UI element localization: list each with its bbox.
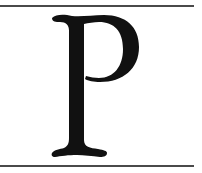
bottom-rule: [0, 165, 194, 167]
letter-p-glyph: P: [0, 0, 202, 173]
letter-p-icon: [0, 0, 202, 173]
